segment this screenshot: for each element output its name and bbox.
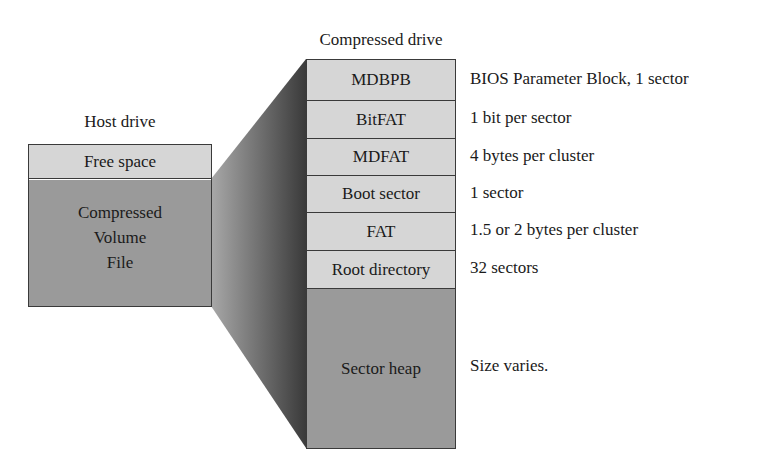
cvf-label-line-2: Volume [78,225,162,250]
desc-fat: 1.5 or 2 bytes per cluster [470,220,638,240]
compressed-drive-title: Compressed drive [306,30,456,50]
row-boot-sector: Boot sector [307,176,455,213]
row-label: BitFAT [356,110,406,130]
desc-root-directory: 32 sectors [470,258,538,278]
row-fat: FAT [307,213,455,251]
cvf-label-line-1: Compressed [78,200,162,225]
free-space-label: Free space [84,152,156,172]
row-label: Boot sector [342,184,420,204]
row-label: FAT [367,222,396,242]
row-mdfat: MDFAT [307,139,455,176]
row-label: Root directory [332,260,431,280]
compressed-drive-column: MDBPB BitFAT MDFAT Boot sector FAT Root … [306,59,456,449]
row-sector-heap: Sector heap [307,289,455,448]
desc-mdbpb: BIOS Parameter Block, 1 sector [470,69,689,89]
desc-sector-heap: Size varies. [470,356,548,376]
compressed-volume-file-block: Compressed Volume File [29,180,211,306]
row-label: MDBPB [351,70,411,90]
row-label: MDFAT [353,147,409,167]
row-bitfat: BitFAT [307,101,455,139]
row-label: Sector heap [341,359,421,379]
host-drive-title: Host drive [28,112,212,132]
desc-mdfat: 4 bytes per cluster [470,146,594,166]
free-space-block: Free space [29,145,211,179]
row-mdbpb: MDBPB [307,60,455,101]
row-root-directory: Root directory [307,251,455,289]
desc-bitfat: 1 bit per sector [470,108,572,128]
host-drive-box: Free space Compressed Volume File [28,144,212,307]
desc-boot-sector: 1 sector [470,183,523,203]
cvf-label-line-3: File [78,250,162,275]
